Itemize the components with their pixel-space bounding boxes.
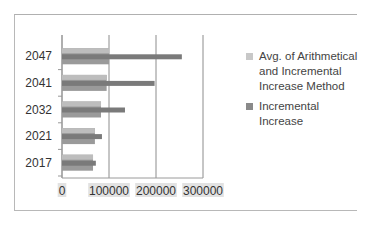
bar-avg-highlight: [62, 75, 107, 80]
y-tick-label: 2047: [25, 49, 52, 63]
legend-label-avg: Avg. of Arithmetical and Incremental Inc…: [259, 50, 357, 92]
x-tick-label: 300000: [183, 184, 223, 198]
x-tick-label: 200000: [136, 184, 176, 198]
bars: [62, 48, 182, 170]
y-axis-ticks: 20172021203220412047: [25, 49, 62, 176]
legend-swatch-avg: [246, 53, 253, 60]
y-tick-label: 2032: [25, 103, 52, 117]
bar-incremental: [62, 108, 125, 113]
bar-avg-highlight: [62, 102, 101, 107]
bar-avg-highlight: [62, 48, 109, 53]
legend-label-incremental: Incremental Increase: [259, 100, 319, 127]
legend: Avg. of Arithmetical and Incremental Inc…: [246, 49, 366, 134]
bar-incremental: [62, 134, 102, 139]
y-tick-label: 2041: [25, 76, 52, 90]
y-tick-label: 2021: [25, 129, 52, 143]
x-tick-label: 0: [59, 184, 66, 198]
bar-incremental: [62, 54, 182, 59]
x-axis-ticks: 0100000200000300000: [58, 183, 224, 198]
bar-incremental: [62, 81, 155, 86]
legend-item-avg: Avg. of Arithmetical and Incremental Inc…: [246, 49, 366, 94]
bar-avg-highlight: [62, 128, 95, 133]
legend-swatch-incremental: [246, 103, 253, 110]
bar-incremental: [62, 161, 96, 166]
y-tick-label: 2017: [25, 156, 52, 170]
x-tick-label: 100000: [89, 184, 129, 198]
bar-avg-highlight: [62, 155, 93, 160]
legend-item-incremental: Incremental Increase: [246, 99, 366, 129]
